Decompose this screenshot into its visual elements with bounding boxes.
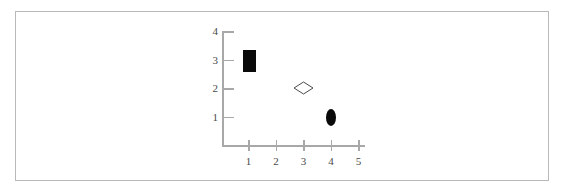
- y-axis-tick-2: [223, 88, 234, 90]
- x-axis-label-2: 2: [269, 156, 283, 167]
- y-axis-label-2: 2: [204, 83, 218, 94]
- x-axis-tick-4: [331, 140, 333, 151]
- y-axis-tick-4: [223, 31, 234, 33]
- y-axis-tick-1: [223, 117, 234, 119]
- y-axis-label-4: 4: [204, 26, 218, 37]
- y-axis-tick-3: [223, 60, 234, 62]
- y-axis-label-1: 1: [204, 112, 218, 123]
- x-axis-label-5: 5: [352, 156, 366, 167]
- data-point-rectangle-marker: [243, 50, 256, 72]
- x-axis-tick-1: [248, 140, 250, 151]
- x-axis-label-4: 4: [324, 156, 338, 167]
- y-axis-label-3: 3: [204, 55, 218, 66]
- x-axis-label-1: 1: [242, 156, 256, 167]
- x-axis-tick-3: [303, 140, 305, 151]
- data-point-ellipse-marker: [326, 109, 336, 126]
- x-axis-label-3: 3: [297, 156, 311, 167]
- figure-frame: 4 3 2 1 1 2 3 4 5: [15, 11, 549, 181]
- plot-area: 4 3 2 1 1 2 3 4 5: [16, 12, 550, 182]
- data-point-diamond-marker: [293, 81, 314, 95]
- x-axis-tick-5: [358, 140, 360, 151]
- x-axis-line: [222, 145, 365, 147]
- x-axis-tick-2: [276, 140, 278, 151]
- diamond-icon: [293, 81, 314, 95]
